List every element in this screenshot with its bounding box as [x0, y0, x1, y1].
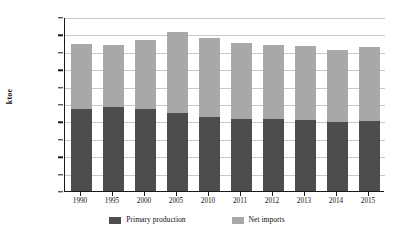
- bar-segment-net-imports: [263, 45, 284, 119]
- bar-group: [359, 17, 380, 191]
- y-axis-tick-mark: [58, 69, 63, 70]
- bar-segment-net-imports: [167, 32, 188, 113]
- legend-label: Primary production: [126, 216, 185, 224]
- bar-segment-primary-production: [71, 109, 92, 191]
- x-axis-tick-mark: [144, 192, 145, 196]
- legend-swatch: [109, 217, 121, 224]
- bar-segment-net-imports: [359, 47, 380, 121]
- x-axis-tick-label: 2011: [220, 198, 260, 205]
- y-axis-tick-mark: [58, 17, 63, 18]
- legend-entry: Net imports: [232, 216, 285, 224]
- y-axis-tick-mark: [58, 104, 63, 105]
- y-axis-tick-mark: [58, 174, 63, 175]
- y-axis-tick-mark: [58, 87, 63, 88]
- bar-group: [263, 17, 284, 191]
- bar-segment-net-imports: [103, 45, 124, 107]
- x-axis-tick-mark: [272, 192, 273, 196]
- bar-segment-primary-production: [167, 113, 188, 191]
- y-axis-tick-mark: [58, 122, 63, 123]
- x-axis-tick-label: 2005: [156, 198, 196, 205]
- x-axis-tick-mark: [336, 192, 337, 196]
- stacked-bar-chart: ktoe 02000004000006000008000001000000120…: [0, 0, 394, 234]
- bar-group: [135, 17, 156, 191]
- x-axis-tick-label: 2014: [316, 198, 356, 205]
- bar-segment-primary-production: [231, 119, 252, 191]
- x-axis-tick-mark: [80, 192, 81, 196]
- x-axis-tick-mark: [208, 192, 209, 196]
- y-axis-tick-mark: [58, 52, 63, 53]
- x-axis-tick-label: 2015: [348, 198, 388, 205]
- y-axis-tick-mark: [58, 35, 63, 36]
- bar-segment-primary-production: [135, 109, 156, 191]
- y-axis-tick-mark: [58, 191, 63, 192]
- plot-area: [64, 18, 384, 192]
- x-axis-tick-label: 2012: [252, 198, 292, 205]
- bar-segment-primary-production: [199, 117, 220, 191]
- y-axis-title: ktoe: [2, 0, 18, 192]
- bar-group: [199, 17, 220, 191]
- bar-segment-net-imports: [135, 40, 156, 109]
- y-axis-tick-mark: [58, 156, 63, 157]
- bar-segment-net-imports: [199, 38, 220, 117]
- x-axis-tick-mark: [112, 192, 113, 196]
- legend-entry: Primary production: [109, 216, 185, 224]
- x-axis-tick-label: 2013: [284, 198, 324, 205]
- x-axis-tick-label: 1990: [60, 198, 100, 205]
- x-axis-tick-label: 1995: [92, 198, 132, 205]
- bar-group: [71, 17, 92, 191]
- bar-group: [327, 17, 348, 191]
- bar-segment-primary-production: [359, 121, 380, 191]
- y-axis-title-text: ktoe: [6, 88, 15, 103]
- bar-segment-primary-production: [295, 120, 316, 191]
- bar-segment-net-imports: [295, 46, 316, 120]
- bar-segment-net-imports: [231, 43, 252, 119]
- bar-group: [103, 17, 124, 191]
- legend-swatch: [232, 217, 244, 224]
- y-axis-tick-mark: [58, 139, 63, 140]
- bar-segment-primary-production: [263, 119, 284, 191]
- bar-segment-primary-production: [103, 107, 124, 191]
- bar-segment-net-imports: [327, 50, 348, 122]
- x-axis-tick-mark: [368, 192, 369, 196]
- x-axis-tick-mark: [304, 192, 305, 196]
- x-axis-tick-mark: [176, 192, 177, 196]
- bar-group: [295, 17, 316, 191]
- x-axis-tick-label: 2010: [188, 198, 228, 205]
- bar-group: [167, 17, 188, 191]
- x-axis-tick-label: 2000: [124, 198, 164, 205]
- legend-label: Net imports: [249, 216, 285, 224]
- x-axis-tick-mark: [240, 192, 241, 196]
- bar-segment-primary-production: [327, 122, 348, 191]
- bar-group: [231, 17, 252, 191]
- bar-segment-net-imports: [71, 44, 92, 109]
- chart-legend: Primary productionNet imports: [0, 213, 394, 227]
